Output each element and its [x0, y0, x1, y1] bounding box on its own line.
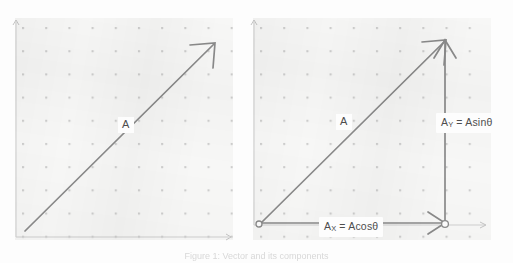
vector-A-left	[25, 43, 215, 231]
vector-label-A-right: A	[336, 114, 352, 130]
origin-point-marker	[256, 221, 262, 227]
component-ay-expression: = Asinθ	[453, 116, 492, 128]
vector-A-shaft-right	[261, 41, 445, 223]
component-label-ay: AY = Asinθ	[436, 113, 498, 133]
component-ax-subscript: X	[331, 224, 336, 233]
component-label-ax: AX = Acosθ	[319, 217, 383, 237]
vector-A-right	[261, 40, 446, 223]
component-ay-subscript: Y	[448, 120, 453, 129]
vector-only-panel: A	[15, 18, 233, 240]
vector-A-shaft-left	[25, 44, 214, 231]
figure-canvas: A	[0, 0, 513, 263]
corner-point-marker	[442, 221, 449, 228]
vector-label-A-left: A	[118, 117, 134, 133]
figure-caption: Figure 1: Vector and its components	[0, 250, 513, 263]
vector-components-panel: A AY = Asinθ AX = Acosθ	[253, 18, 491, 240]
component-ax-expression: = Acosθ	[336, 220, 378, 232]
